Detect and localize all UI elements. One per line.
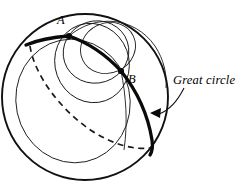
great-circle-arc [26,36,152,155]
great-circle-callout-label: Great circle [173,73,235,87]
sphere-outline [2,14,168,180]
point-b-marker [118,68,124,74]
sphere-diagram: A B Great circle [0,0,243,189]
small-circle-arc-top [69,21,166,88]
callout-leader-line [159,88,184,114]
figure-root: A B Great circle [0,0,243,189]
point-b-label: B [128,72,136,86]
point-a-marker [66,33,72,39]
callout-arrowhead-icon [150,108,161,118]
hidden-dashed-arc [30,46,150,148]
small-circle-arc-large-left [4,29,141,174]
point-a-label: A [56,13,65,27]
